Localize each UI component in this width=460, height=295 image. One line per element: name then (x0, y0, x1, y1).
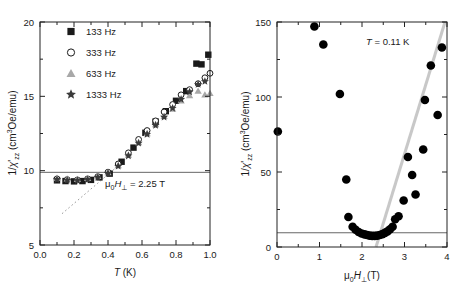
legend-marker-0 (67, 28, 74, 35)
marker-circle (344, 213, 353, 222)
marker-circle (388, 222, 397, 231)
marker-circle (419, 145, 428, 154)
right-xtick-2: 2 (359, 251, 364, 262)
series-633-Hz (53, 88, 213, 183)
two-panel-figure: 20 15 10 5 0.0 0.2 0.4 0.6 0.8 1.0 T (K)… (0, 0, 460, 295)
marker-triangle (194, 88, 201, 94)
left-legend: 133 Hz 333 Hz 633 Hz 1333 Hz (66, 26, 122, 100)
right-data-points (274, 22, 447, 240)
left-ytick-20: 20 (23, 17, 34, 28)
left-panel-svg: 20 15 10 5 0.0 0.2 0.4 0.6 0.8 1.0 T (K)… (0, 0, 230, 295)
marker-square (198, 61, 204, 67)
marker-circle (399, 196, 408, 205)
right-axis-ticks (277, 22, 447, 247)
legend-marker-3 (66, 89, 76, 98)
marker-circle (438, 43, 447, 52)
marker-circle (342, 175, 351, 184)
marker-circle (411, 190, 420, 199)
series-333-Hz (54, 70, 213, 182)
marker-circle (319, 40, 328, 49)
left-xtick-2: 0.4 (101, 249, 114, 260)
left-axis-ticks (40, 22, 210, 245)
legend-label-3: 1333 Hz (86, 89, 122, 100)
marker-circle (404, 153, 413, 162)
series-main (274, 22, 447, 240)
left-xtick-4: 0.8 (169, 249, 182, 260)
left-xtick-5: 1.0 (203, 249, 216, 260)
left-ytick-10: 10 (23, 165, 34, 176)
left-plot-frame (40, 22, 210, 245)
left-data-points (53, 52, 214, 185)
right-xtick-1: 1 (317, 251, 322, 262)
marker-circle (310, 22, 319, 31)
legend-label-2: 633 Hz (86, 68, 116, 79)
right-ytick-100: 100 (255, 92, 271, 103)
marker-circle (421, 96, 430, 105)
left-xtick-3: 0.6 (135, 249, 148, 260)
marker-circle (433, 111, 442, 120)
right-ytick-50: 50 (260, 167, 271, 178)
left-annotation: μ0H⊥ = 2.25 T (105, 178, 165, 191)
right-xtick-0: 0 (274, 251, 279, 262)
right-fit-line (376, 22, 445, 247)
right-xtick-3: 3 (402, 251, 407, 262)
marker-square (130, 144, 136, 150)
marker-circle (336, 90, 345, 99)
right-annotation: T = 0.11 K (366, 36, 410, 47)
right-panel: 150 100 50 0 0 1 2 3 4 μ0H⊥(T) 1/χ'zz (c… (230, 0, 460, 295)
legend-marker-2 (67, 69, 76, 77)
right-panel-svg: 150 100 50 0 0 1 2 3 4 μ0H⊥(T) 1/χ'zz (c… (230, 0, 460, 295)
left-panel: 20 15 10 5 0.0 0.2 0.4 0.6 0.8 1.0 T (K)… (0, 0, 230, 295)
marker-circle (408, 171, 417, 180)
marker-circle (427, 61, 436, 70)
right-plot-frame (277, 22, 447, 247)
left-yaxis-label: 1/χ'zz (cm3Oe/emu) (6, 91, 20, 176)
right-ytick-0: 0 (266, 242, 271, 253)
legend-markers (66, 28, 76, 99)
right-ytick-150: 150 (255, 17, 271, 28)
right-xtick-4: 4 (444, 251, 449, 262)
left-xtick-0: 0.0 (33, 249, 46, 260)
series-133-Hz (54, 52, 212, 185)
legend-label-1: 333 Hz (86, 47, 116, 58)
legend-label-0: 133 Hz (86, 26, 116, 37)
right-xaxis-label: μ0H⊥(T) (344, 270, 380, 283)
marker-square (205, 52, 211, 58)
left-xtick-1: 0.2 (67, 249, 80, 260)
left-xaxis-label: T (K) (114, 267, 136, 278)
legend-marker-1 (67, 49, 74, 56)
right-yaxis-label: 1/χ'zz (cm3Oe/emu) (239, 92, 253, 177)
marker-circle (394, 212, 403, 221)
left-ytick-15: 15 (23, 91, 34, 102)
